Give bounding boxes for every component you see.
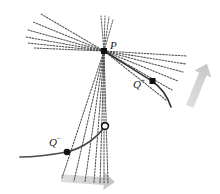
secant-fan-lower-left [62,51,108,183]
label-q-minus: Q− [49,136,61,148]
motion-arrow-right [181,60,215,109]
point-open-circle [102,123,109,130]
point-q-plus [150,78,156,84]
secant-fan-upper-left [26,14,104,51]
label-q-plus: Q+ [133,78,145,90]
secant-line [104,51,108,183]
secant-line [104,51,166,100]
figure-canvas: P Q+ Q− [0,0,220,194]
secant-line [62,51,104,178]
secant-line [28,30,104,51]
figure-svg [0,0,220,194]
point-q-minus [64,149,71,156]
secant-line [33,22,104,51]
secant-line [104,16,105,51]
label-p: P [110,39,117,51]
secant-line [85,51,104,182]
secant-line [101,16,104,51]
point-p [101,48,107,54]
